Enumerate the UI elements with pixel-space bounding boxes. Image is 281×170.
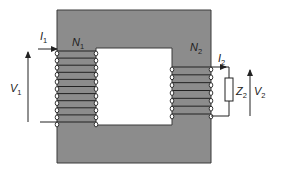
winding-loop bbox=[209, 83, 213, 88]
winding-loop bbox=[209, 67, 213, 72]
winding-loop bbox=[209, 75, 213, 80]
label-v2: V2 bbox=[254, 85, 266, 100]
winding-loop bbox=[55, 58, 59, 63]
winding-loop bbox=[170, 114, 174, 119]
winding-loop bbox=[170, 67, 174, 72]
label-i2: I2 bbox=[218, 52, 225, 67]
load-return-wire bbox=[211, 101, 229, 116]
winding-loop bbox=[55, 108, 59, 113]
label-z2: Z2 bbox=[235, 85, 247, 100]
primary-leads bbox=[28, 49, 57, 122]
load-impedance-box bbox=[225, 78, 233, 101]
winding-loop bbox=[55, 72, 59, 77]
winding-loop bbox=[94, 115, 98, 120]
load-top-wire bbox=[224, 67, 229, 78]
winding-loop bbox=[55, 94, 59, 99]
winding-loop bbox=[209, 91, 213, 96]
winding-loop bbox=[94, 58, 98, 63]
winding-loop bbox=[170, 91, 174, 96]
winding-loop bbox=[94, 72, 98, 77]
winding-loop bbox=[55, 51, 59, 56]
winding-loop bbox=[94, 65, 98, 70]
winding-loop bbox=[55, 65, 59, 70]
winding-loop bbox=[55, 115, 59, 120]
winding-loop bbox=[94, 94, 98, 99]
winding-loop bbox=[209, 98, 213, 103]
label-v1: V1 bbox=[10, 82, 22, 97]
winding-loop bbox=[209, 106, 213, 111]
winding-loop bbox=[55, 87, 59, 92]
winding-loop bbox=[94, 122, 98, 127]
label-i1: I1 bbox=[40, 30, 47, 45]
winding-loop bbox=[55, 80, 59, 85]
winding-loop bbox=[94, 87, 98, 92]
winding-loop bbox=[94, 108, 98, 113]
winding-loop bbox=[94, 80, 98, 85]
winding-loop bbox=[170, 106, 174, 111]
winding-loop bbox=[55, 101, 59, 106]
winding-loop bbox=[94, 51, 98, 56]
winding-loop bbox=[94, 101, 98, 106]
winding-loop bbox=[55, 122, 59, 127]
winding-loop bbox=[170, 75, 174, 80]
winding-loop bbox=[170, 98, 174, 103]
winding-loop bbox=[170, 83, 174, 88]
transformer-diagram: I1 N1 V1 N2 I2 Z2 V2 bbox=[0, 0, 281, 170]
